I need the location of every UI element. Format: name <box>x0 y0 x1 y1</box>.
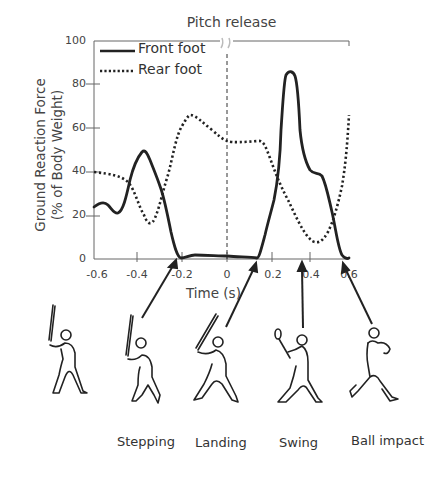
series-front-foot <box>94 72 349 259</box>
arrow-stepping <box>142 260 177 318</box>
batter-ball-impact-icon <box>350 328 398 401</box>
batter-stepping-icon <box>126 315 160 403</box>
chart-canvas <box>0 0 447 479</box>
batter-stance-icon <box>49 305 87 393</box>
plot-frame <box>86 41 349 262</box>
batter-swing-icon <box>275 329 322 402</box>
phase-arrows <box>142 260 372 328</box>
series-rear-foot <box>94 115 349 242</box>
batter-landing-icon <box>194 314 238 402</box>
arrow-ball-impact <box>342 263 372 324</box>
arrow-landing <box>226 263 257 327</box>
arrow-swing <box>298 262 306 328</box>
axis-break-icon <box>221 38 230 48</box>
